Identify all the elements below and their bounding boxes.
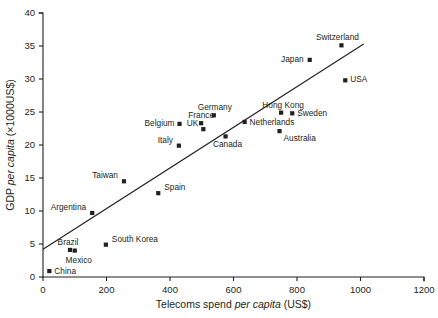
data-point-switzerland	[339, 43, 343, 47]
y-tick-label: 25	[24, 106, 35, 117]
data-point-china	[47, 269, 51, 273]
best-fit-line	[43, 44, 364, 249]
y-axis-tick-labels: 0510152025303540	[24, 7, 35, 282]
x-tick-label: 200	[99, 284, 115, 295]
data-point-italy	[177, 144, 181, 148]
data-point-france	[199, 121, 203, 125]
data-point-sweden	[290, 111, 294, 115]
x-tick-label: 800	[289, 284, 305, 295]
point-label-japan: Japan	[281, 54, 304, 64]
data-point-netherlands	[243, 120, 247, 124]
data-point-uk	[201, 127, 205, 131]
point-label-italy: Italy	[158, 135, 174, 145]
y-tick-label: 40	[24, 7, 35, 18]
point-label-spain: Spain	[164, 182, 186, 192]
data-point-argentina	[90, 211, 94, 215]
y-tick-label: 20	[24, 139, 35, 150]
point-label-netherlands: Netherlands	[250, 117, 295, 127]
y-tick-label: 5	[30, 238, 35, 249]
data-point-hong-kong	[279, 111, 283, 115]
y-axis-title: GDP per capita (×1000US$)	[4, 79, 16, 210]
y-axis-ticks	[39, 13, 43, 277]
point-label-belgium: Belgium	[145, 118, 175, 128]
y-tick-label: 15	[24, 172, 35, 183]
x-tick-label: 400	[162, 284, 178, 295]
point-label-sweden: Sweden	[297, 108, 327, 118]
chart-canvas: 0510152025303540 020040060080010001200 C…	[0, 0, 438, 318]
y-tick-label: 0	[30, 271, 35, 282]
point-label-china: China	[54, 266, 76, 276]
data-point-canada	[223, 134, 227, 138]
scatter-plot-figure: 0510152025303540 020040060080010001200 C…	[0, 0, 438, 318]
y-tick-label: 30	[24, 73, 35, 84]
point-label-argentina: Argentina	[51, 202, 87, 212]
y-tick-label: 10	[24, 205, 35, 216]
data-point-labels: ChinaBrazilMexicoSouth KoreaArgentinaSpa…	[51, 32, 368, 276]
x-axis-tick-labels: 020040060080010001200	[40, 284, 434, 295]
data-point-brazil	[68, 248, 72, 252]
data-point-markers	[47, 43, 347, 273]
point-label-canada: Canada	[213, 139, 242, 149]
point-label-taiwan: Taiwan	[92, 170, 118, 180]
data-point-mexico	[73, 249, 77, 253]
point-label-germany: Germany	[198, 102, 233, 112]
x-axis-title: Telecoms spend per capita (US$)	[156, 298, 311, 310]
y-tick-label: 35	[24, 40, 35, 51]
data-point-taiwan	[122, 179, 126, 183]
point-label-south-korea: South Korea	[112, 234, 159, 244]
point-label-mexico: Mexico	[66, 255, 93, 265]
x-axis-ticks	[43, 277, 424, 281]
point-label-australia: Australia	[284, 133, 317, 143]
data-point-australia	[277, 129, 281, 133]
data-point-belgium	[177, 122, 181, 126]
data-point-spain	[156, 191, 160, 195]
data-point-usa	[343, 78, 347, 82]
x-tick-label: 1000	[350, 284, 371, 295]
trend-line-group	[43, 44, 364, 249]
x-tick-label: 1200	[413, 284, 434, 295]
point-label-brazil: Brazil	[58, 237, 79, 247]
x-tick-label: 600	[226, 284, 242, 295]
point-label-switzerland: Switzerland	[316, 32, 359, 42]
point-label-usa: USA	[350, 74, 368, 84]
data-point-south-korea	[104, 243, 108, 247]
x-tick-label: 0	[40, 284, 45, 295]
data-point-japan	[308, 58, 312, 62]
